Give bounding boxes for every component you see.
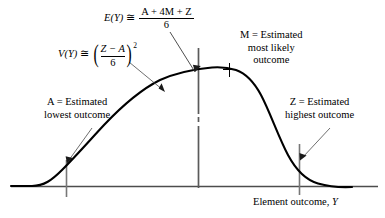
expected-value-formula: E(Y) ≅ A + 4M + Z 6	[104, 6, 194, 31]
x-axis-label-text: Element outcome,	[253, 196, 332, 207]
a-leader-arrow	[66, 128, 92, 164]
expected-value-relation: ≅	[126, 12, 135, 25]
beta-density-curve	[11, 67, 352, 187]
variance-fraction: Z − A 6	[101, 41, 125, 69]
m-annotation-line1: M = Estimated	[240, 29, 303, 42]
m-annotation-line2: most likely	[240, 42, 303, 55]
m-annotation: M = Estimated most likely outcome	[240, 29, 303, 67]
a-annotation-line1: A = Estimated	[44, 96, 110, 109]
expected-value-numerator: A + 4M + Z	[139, 6, 193, 18]
variance-lhs: V(Y)	[58, 41, 77, 67]
a-annotation-line2: lowest outcome	[44, 109, 110, 122]
expected-value-fraction: A + 4M + Z 6	[139, 6, 193, 31]
variance-relation: ≅	[80, 41, 89, 67]
variance-formula: V(Y) ≅ ( Z − A 6 ) 2	[58, 41, 137, 69]
ey-leader-arrow	[170, 32, 201, 73]
pert-distribution-figure: E(Y) ≅ A + 4M + Z 6 V(Y) ≅ ( Z − A 6 ) 2…	[0, 0, 385, 218]
z-annotation: Z = Estimated highest outcome	[285, 96, 354, 121]
x-axis-label-variable: Y	[332, 196, 338, 207]
m-annotation-line3: outcome	[240, 54, 303, 67]
z-annotation-line2: highest outcome	[285, 109, 354, 122]
variance-exponent: 2	[133, 41, 137, 50]
left-paren: (	[94, 41, 99, 67]
variance-numerator: Z − A	[101, 43, 125, 56]
z-leader-arrow	[299, 128, 330, 161]
right-paren: )	[127, 41, 132, 67]
expected-value-denominator: 6	[164, 19, 169, 31]
variance-denominator: 6	[110, 57, 115, 70]
expected-value-lhs: E(Y)	[104, 12, 123, 25]
x-axis-label: Element outcome, Y	[253, 196, 338, 209]
z-annotation-line1: Z = Estimated	[285, 96, 354, 109]
a-annotation: A = Estimated lowest outcome	[44, 96, 110, 121]
